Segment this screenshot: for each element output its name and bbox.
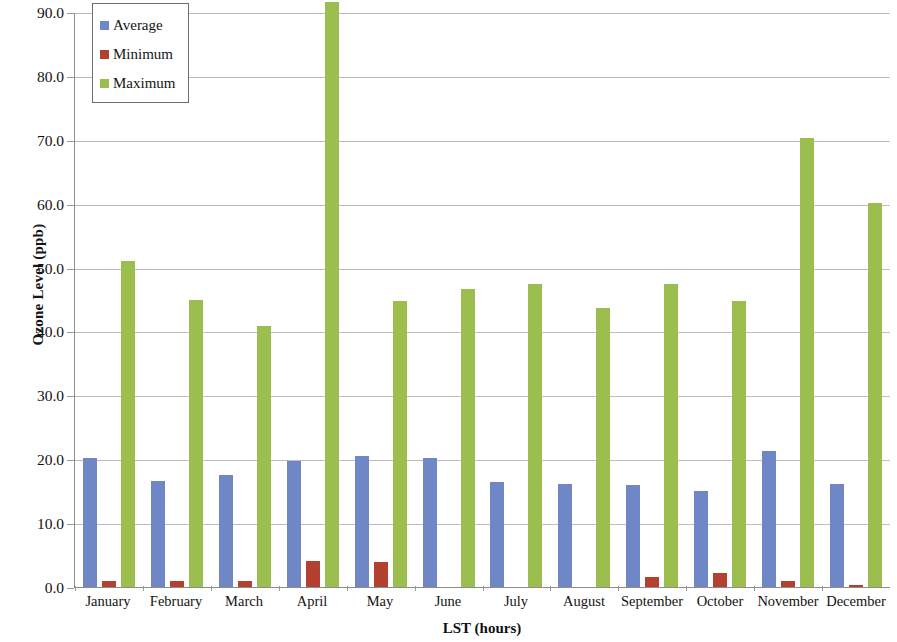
y-axis-tick-mark: [67, 141, 74, 142]
x-axis-tick-label: August: [550, 594, 618, 609]
bar-max: [393, 301, 407, 587]
bar-avg: [355, 456, 369, 587]
legend-swatch-icon: [100, 21, 109, 30]
x-axis-title: LST (hours): [74, 620, 890, 637]
bar-avg: [490, 482, 504, 587]
y-axis-tick-label: 80.0: [0, 69, 64, 85]
bar-group: [279, 13, 347, 587]
legend-swatch-icon: [100, 50, 109, 59]
x-axis-tick-mark: [279, 586, 280, 591]
bar-avg: [694, 491, 708, 587]
legend-swatch-icon: [100, 79, 109, 88]
legend-item: Maximum: [100, 69, 188, 98]
bar-group: [686, 13, 754, 587]
x-axis-tick-label: July: [482, 594, 550, 609]
bar-group: [483, 13, 551, 587]
bar-avg: [830, 484, 844, 587]
y-axis-tick-mark: [67, 396, 74, 397]
bar-max: [596, 308, 610, 587]
bar-max: [461, 289, 475, 587]
x-axis-tick-mark: [211, 586, 212, 591]
y-axis-tick-label: 90.0: [0, 5, 64, 21]
bar-group: [822, 13, 890, 587]
bar-avg: [762, 451, 776, 587]
y-axis-tick-mark: [67, 524, 74, 525]
x-axis-tick-mark: [347, 586, 348, 591]
x-axis-tick-mark: [550, 586, 551, 591]
x-axis-tick-label: May: [346, 594, 414, 609]
y-axis-tick-label: 10.0: [0, 516, 64, 532]
ozone-level-bar-chart: Ozone Level (ppb) 90.080.070.060.050.040…: [0, 0, 897, 642]
bar-min: [781, 581, 795, 587]
chart-legend: AverageMinimumMaximum: [92, 3, 189, 103]
bar-group: [211, 13, 279, 587]
bar-avg: [151, 481, 165, 587]
y-axis-tick-mark: [67, 588, 74, 589]
bar-min: [713, 573, 727, 587]
x-axis-tick-label: January: [74, 594, 142, 609]
legend-label: Maximum: [113, 76, 176, 91]
y-axis-tick-label: 40.0: [0, 325, 64, 341]
bar-max: [732, 301, 746, 587]
bar-min: [170, 581, 184, 587]
bar-avg: [558, 484, 572, 587]
bar-group: [754, 13, 822, 587]
x-axis-tick-label: November: [754, 594, 822, 609]
bar-avg: [287, 461, 301, 587]
bar-max: [664, 284, 678, 587]
x-axis-tick-mark: [754, 586, 755, 591]
bar-min: [102, 581, 116, 587]
y-axis-tick-label: 30.0: [0, 389, 64, 405]
x-axis-tick-labels: JanuaryFebruaryMarchAprilMayJuneJulyAugu…: [74, 594, 890, 609]
x-axis-tick-mark: [75, 586, 76, 591]
plot-area: [74, 13, 890, 588]
legend-label: Average: [113, 18, 163, 33]
y-axis-tick-label: 20.0: [0, 452, 64, 468]
x-axis-tick-mark: [143, 586, 144, 591]
x-axis-tick-label: December: [822, 594, 890, 609]
bar-min: [645, 577, 659, 587]
x-axis-tick-mark: [415, 586, 416, 591]
x-axis-tick-label: October: [686, 594, 754, 609]
y-axis-tick-mark: [67, 77, 74, 78]
x-axis-tick-label: February: [142, 594, 210, 609]
bar-max: [325, 2, 339, 587]
bar-groups: [75, 13, 890, 587]
y-axis-tick-label: 70.0: [0, 133, 64, 149]
x-axis-tick-label: June: [414, 594, 482, 609]
bar-avg: [626, 485, 640, 587]
bar-max: [189, 300, 203, 587]
y-axis-tick-mark: [67, 205, 74, 206]
legend-item: Average: [100, 11, 188, 40]
bar-max: [528, 284, 542, 587]
bar-group: [415, 13, 483, 587]
bar-max: [257, 326, 271, 587]
bar-min: [374, 562, 388, 587]
y-axis-tick-labels: 90.080.070.060.050.040.030.020.010.00.0: [0, 0, 64, 600]
bar-group: [347, 13, 415, 587]
bar-avg: [219, 475, 233, 587]
y-axis-tick-label: 0.0: [0, 580, 64, 596]
x-axis-tick-label: September: [618, 594, 686, 609]
bar-group: [618, 13, 686, 587]
y-axis-tick-mark: [67, 332, 74, 333]
x-axis-tick-mark: [686, 586, 687, 591]
x-axis-tick-mark: [618, 586, 619, 591]
bar-min: [849, 585, 863, 587]
legend-item: Minimum: [100, 40, 188, 69]
bar-min: [238, 581, 252, 587]
bar-max: [868, 203, 882, 587]
bar-max: [121, 261, 135, 587]
legend-label: Minimum: [113, 47, 173, 62]
x-axis-tick-label: March: [210, 594, 278, 609]
bar-avg: [423, 458, 437, 587]
y-axis-tick-mark: [67, 13, 74, 14]
y-axis-tick-mark: [67, 269, 74, 270]
x-axis-tick-mark: [822, 586, 823, 591]
y-axis-tick-label: 60.0: [0, 197, 64, 213]
bar-avg: [83, 458, 97, 587]
x-axis-tick-label: April: [278, 594, 346, 609]
bar-max: [800, 138, 814, 587]
bar-group: [550, 13, 618, 587]
x-axis-tick-mark: [483, 586, 484, 591]
